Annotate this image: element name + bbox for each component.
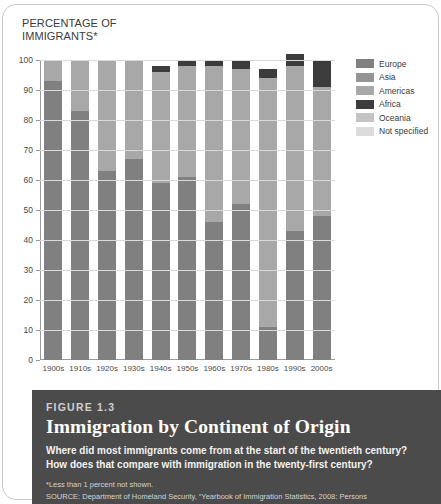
legend-swatch: [356, 73, 374, 82]
gridline: [40, 330, 335, 331]
gridline: [40, 300, 335, 301]
x-axis-tick-label: 1960s: [201, 364, 228, 373]
figure-caption-panel: FIGURE 1.3 Immigration by Continent of O…: [32, 390, 441, 504]
y-axis-tick-mark: [36, 180, 40, 181]
legend-label: Europe: [379, 59, 406, 69]
y-axis-tick-label: 30: [0, 265, 33, 275]
y-axis-tick-label: 80: [0, 115, 33, 125]
gridline: [40, 90, 335, 91]
chart-plot-area: 0102030405060708090100: [40, 60, 335, 360]
y-axis-tick-mark: [36, 120, 40, 121]
x-axis-tick-label: 1900s: [40, 364, 67, 373]
figure-note: *Less than 1 percent not shown.: [46, 480, 427, 491]
y-axis-tick-label: 10: [0, 325, 33, 335]
gridline: [40, 150, 335, 151]
legend-item-americas[interactable]: Americas: [356, 85, 440, 96]
y-axis-tick-label: 60: [0, 175, 33, 185]
x-axis-tick-label: 1920s: [94, 364, 121, 373]
y-axis-tick-mark: [36, 150, 40, 151]
legend-item-europe[interactable]: Europe: [356, 58, 440, 69]
legend-swatch: [356, 113, 374, 122]
bar-segment-europe: [286, 231, 304, 360]
legend-swatch: [356, 100, 374, 109]
y-axis-tick-label: 70: [0, 145, 33, 155]
bar-segment-europe: [178, 177, 196, 360]
figure-subtitle: Where did most immigrants come from at t…: [46, 444, 427, 472]
bar-segment-americas: [259, 78, 277, 327]
figure-title: Immigration by Continent of Origin: [46, 416, 427, 437]
bar-segment-europe: [71, 111, 89, 360]
x-axis-tick-label: 1990s: [281, 364, 308, 373]
y-axis-tick-mark: [36, 240, 40, 241]
legend-label: Oceania: [379, 113, 411, 123]
bar-segment-americas: [44, 60, 62, 81]
x-axis-tick-label: 1980s: [255, 364, 282, 373]
y-axis-tick-label: 90: [0, 85, 33, 95]
y-axis-title: PERCENTAGE OF IMMIGRANTS*: [22, 17, 117, 43]
bar-segment-africa: [313, 60, 331, 87]
bar-segment-americas: [98, 60, 116, 171]
legend-label: Africa: [379, 99, 401, 109]
figure-source: SOURCE: Department of Homeland Security,…: [46, 492, 427, 503]
x-axis-tick-label: 1930s: [120, 364, 147, 373]
gridline: [40, 210, 335, 211]
bar-segment-europe: [232, 204, 250, 360]
bar-segment-americas: [152, 72, 170, 183]
gridline: [40, 120, 335, 121]
y-axis-tick-mark: [36, 360, 40, 361]
bar-segment-americas: [178, 66, 196, 177]
legend-item-africa[interactable]: Africa: [356, 99, 440, 110]
legend-label: Asia: [379, 72, 396, 82]
bar-segment-americas: [125, 60, 143, 159]
x-axis-tick-label: 1910s: [67, 364, 94, 373]
bar-segment-americas: [313, 87, 331, 216]
x-axis-labels: 1900s1910s1920s1930s1940s1950s1960s1970s…: [40, 364, 335, 373]
bar-segment-americas: [71, 60, 89, 111]
legend-swatch: [356, 127, 374, 136]
figure-number: FIGURE 1.3: [46, 401, 427, 413]
x-axis-tick-label: 1970s: [228, 364, 255, 373]
y-axis-tick-mark: [36, 60, 40, 61]
y-axis-tick-label: 100: [0, 55, 33, 65]
bar-segment-europe: [98, 171, 116, 360]
x-axis-tick-label: 2000s: [308, 364, 335, 373]
legend-item-asia[interactable]: Asia: [356, 72, 440, 83]
bar-segment-africa: [232, 60, 250, 69]
legend-swatch: [356, 59, 374, 68]
chart-legend: EuropeAsiaAmericasAfricaOceaniaNot speci…: [356, 58, 440, 139]
bar-segment-europe: [313, 216, 331, 360]
y-axis-tick-mark: [36, 300, 40, 301]
y-axis-tick-mark: [36, 210, 40, 211]
bar-segment-europe: [259, 327, 277, 360]
legend-swatch: [356, 86, 374, 95]
bar-segment-africa: [152, 66, 170, 72]
bar-segment-europe: [44, 81, 62, 360]
y-axis-tick-label: 50: [0, 205, 33, 215]
bar-segment-europe: [205, 222, 223, 360]
x-axis-tick-label: 1940s: [147, 364, 174, 373]
y-axis-tick-mark: [36, 90, 40, 91]
gridline: [40, 180, 335, 181]
figure-root: PERCENTAGE OF IMMIGRANTS* 01020304050607…: [0, 0, 441, 504]
y-axis-tick-label: 0: [0, 355, 33, 365]
bar-segment-africa: [259, 69, 277, 78]
legend-item-not-specified[interactable]: Not specified: [356, 126, 440, 137]
y-axis-tick-mark: [36, 270, 40, 271]
x-axis-tick-label: 1950s: [174, 364, 201, 373]
legend-item-oceania[interactable]: Oceania: [356, 112, 440, 123]
gridline: [40, 240, 335, 241]
legend-label: Not specified: [379, 126, 428, 136]
gridline: [40, 270, 335, 271]
gridline: [40, 60, 335, 61]
y-axis-tick-label: 40: [0, 235, 33, 245]
y-axis-tick-mark: [36, 330, 40, 331]
legend-label: Americas: [379, 86, 414, 96]
y-axis-tick-label: 20: [0, 295, 33, 305]
